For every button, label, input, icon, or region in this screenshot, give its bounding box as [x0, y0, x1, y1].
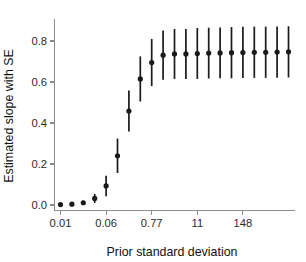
data-point-marker	[126, 109, 131, 114]
data-point-marker	[252, 50, 257, 55]
y-tick-label: 0.6	[31, 76, 47, 88]
data-point-marker	[240, 50, 245, 55]
y-tick-label: 0.2	[31, 158, 47, 170]
data-point-group	[149, 39, 154, 86]
x-axis-tick-labels: 0.010.060.7711148	[50, 217, 253, 229]
data-point-group	[240, 27, 245, 78]
x-tick-label: 11	[191, 217, 203, 229]
data-point-group	[275, 26, 280, 77]
data-point-group	[161, 31, 166, 80]
data-point-group	[229, 27, 234, 78]
data-point-marker	[58, 202, 63, 207]
data-point-marker	[206, 50, 211, 55]
data-point-marker	[149, 60, 154, 65]
data-point-group	[218, 27, 223, 78]
data-point-group	[286, 26, 291, 77]
x-axis-ticks	[61, 211, 243, 216]
data-point-marker	[104, 183, 109, 188]
data-point-marker	[195, 51, 200, 56]
data-point-group	[138, 56, 143, 101]
data-point-marker	[275, 49, 280, 54]
data-point-marker	[263, 50, 268, 55]
data-point-group	[263, 27, 268, 78]
y-tick-label: 0.4	[31, 117, 47, 129]
y-axis-tick-labels: 0.00.20.40.60.8	[31, 35, 47, 211]
data-point-group	[183, 29, 188, 79]
x-tick-label: 148	[234, 217, 253, 229]
data-point-group	[115, 139, 120, 173]
y-tick-label: 0.0	[31, 199, 47, 211]
error-bar-plot: 0.00.20.40.60.8 0.010.060.7711148 Prior …	[0, 0, 306, 262]
x-tick-label: 0.01	[50, 217, 72, 229]
data-point-group	[172, 29, 177, 79]
data-point-group	[81, 200, 86, 205]
data-point-group	[104, 176, 109, 197]
data-point-marker	[81, 200, 86, 205]
data-point-marker	[92, 196, 97, 201]
data-point-marker	[115, 153, 120, 158]
data-point-group	[252, 27, 257, 78]
data-point-group	[58, 202, 63, 207]
data-point-group	[195, 28, 200, 79]
chart-figure: 0.00.20.40.60.8 0.010.060.7711148 Prior …	[0, 0, 306, 262]
data-point-group	[206, 28, 211, 79]
y-axis-title: Estimated slope with SE	[2, 49, 16, 183]
data-point-marker	[286, 49, 291, 54]
data-series	[58, 26, 291, 207]
data-point-marker	[183, 51, 188, 56]
x-tick-label: 0.06	[95, 217, 117, 229]
data-point-group	[92, 194, 97, 203]
data-point-marker	[161, 53, 166, 58]
data-point-marker	[229, 50, 234, 55]
data-point-group	[126, 91, 131, 132]
data-point-group	[69, 202, 74, 207]
data-point-marker	[172, 51, 177, 56]
y-axis-ticks	[50, 41, 55, 205]
x-tick-label: 0.77	[141, 217, 163, 229]
data-point-marker	[69, 202, 74, 207]
x-axis-title: Prior standard deviation	[107, 245, 238, 259]
data-point-marker	[218, 50, 223, 55]
data-point-marker	[138, 76, 143, 81]
y-tick-label: 0.8	[31, 35, 47, 47]
